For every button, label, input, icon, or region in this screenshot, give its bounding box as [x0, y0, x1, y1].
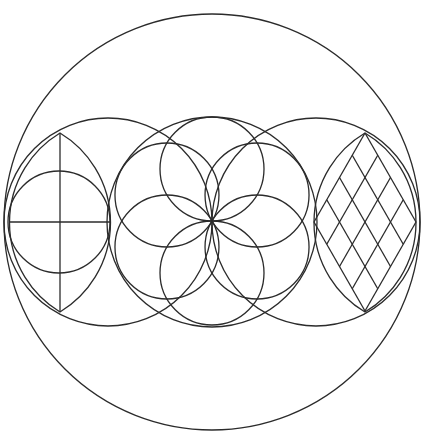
row-circle-3 [212, 118, 420, 326]
geometric-diagram [0, 0, 423, 434]
diagram-canvas [0, 0, 423, 434]
